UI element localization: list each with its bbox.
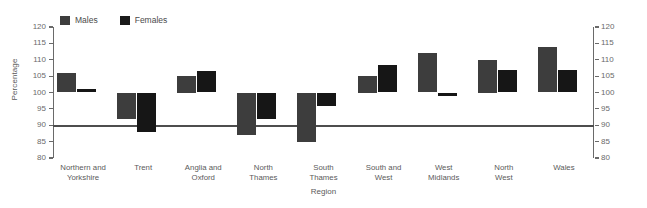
y-tick-r-80 [595, 157, 599, 158]
y-tick-label-r-90: 90 [601, 121, 621, 129]
y-tick-label-r-110: 110 [601, 56, 621, 64]
bar-females [197, 71, 216, 92]
y-tick-label-l-80: 80 [26, 154, 46, 162]
bar-males [297, 93, 316, 142]
y-tick-label-l-90: 90 [26, 121, 46, 129]
plot-area [53, 27, 594, 158]
y-tick-label-r-95: 95 [601, 105, 621, 113]
bar-females [558, 70, 577, 93]
bar-group [173, 27, 233, 158]
bar-females [257, 93, 276, 119]
y-tick-r-90 [595, 125, 599, 126]
bar-males [117, 93, 136, 119]
bar-group [534, 27, 594, 158]
y-tick-label-l-100: 100 [26, 89, 46, 97]
bar-males [177, 76, 196, 92]
bar-group [474, 27, 534, 158]
bar-females [77, 89, 96, 92]
y-tick-r-95 [595, 108, 599, 109]
bar-group [293, 27, 353, 158]
bar-group [233, 27, 293, 158]
bar-males [538, 47, 557, 93]
y-tick-r-85 [595, 141, 599, 142]
y-tick-label-l-110: 110 [26, 56, 46, 64]
legend-label-females: Females [135, 15, 168, 25]
bar-chart: Percentage Males Females 120115110105100… [0, 0, 647, 208]
y-tick-r-100 [595, 92, 599, 93]
bar-females [137, 93, 156, 132]
bar-females [438, 93, 457, 96]
y-tick-r-105 [595, 76, 599, 77]
y-tick-label-l-95: 95 [26, 105, 46, 113]
bar-group [354, 27, 414, 158]
bar-males [358, 76, 377, 92]
y-tick-label-l-120: 120 [26, 23, 46, 31]
chart-legend: Males Females [60, 15, 167, 25]
legend-item-males: Males [60, 15, 98, 25]
y-axis-title: Percentage [10, 40, 19, 120]
y-tick-label-r-120: 120 [601, 23, 621, 31]
legend-label-males: Males [75, 15, 98, 25]
y-tick-label-r-85: 85 [601, 138, 621, 146]
y-tick-label-l-85: 85 [26, 138, 46, 146]
y-tick-r-120 [595, 26, 599, 27]
legend-item-females: Females [120, 15, 168, 25]
bar-group [113, 27, 173, 158]
y-tick-r-110 [595, 59, 599, 60]
y-tick-r-115 [595, 43, 599, 44]
legend-swatch-females-icon [120, 16, 130, 25]
bar-males [237, 93, 256, 136]
y-tick-label-r-105: 105 [601, 72, 621, 80]
bar-males [478, 60, 497, 93]
bar-group [53, 27, 113, 158]
x-axis-category-label: Wales [526, 163, 602, 173]
y-tick-label-r-80: 80 [601, 154, 621, 162]
bar-females [378, 65, 397, 93]
y-tick-label-l-115: 115 [26, 39, 46, 47]
y-tick-label-l-105: 105 [26, 72, 46, 80]
x-axis-title: Region [0, 187, 647, 196]
y-tick-label-r-115: 115 [601, 39, 621, 47]
bar-males [57, 73, 76, 93]
y-tick-label-r-100: 100 [601, 89, 621, 97]
bar-males [418, 53, 437, 92]
bar-females [317, 93, 336, 106]
bar-females [498, 70, 517, 93]
bar-group [414, 27, 474, 158]
legend-swatch-males-icon [60, 16, 70, 25]
